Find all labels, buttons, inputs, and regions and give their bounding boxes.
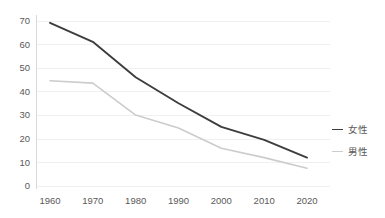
y-axis-tick-labels: 010203040506070	[19, 15, 30, 192]
series-line-male	[50, 81, 307, 168]
line-chart: 010203040506070 196019701980199020002010…	[0, 0, 385, 218]
gridlines	[36, 22, 330, 187]
legend-item-male[interactable]: 男性	[332, 140, 384, 162]
y-tick-label: 30	[19, 109, 30, 120]
x-tick-label: 1980	[125, 195, 146, 206]
y-tick-label: 70	[19, 15, 30, 26]
legend-swatch-male	[332, 151, 343, 152]
x-tick-label: 2000	[211, 195, 232, 206]
x-tick-label: 1970	[82, 195, 103, 206]
x-tick-label: 1990	[168, 195, 189, 206]
legend-swatch-female	[332, 129, 343, 130]
legend-item-female[interactable]: 女性	[332, 118, 384, 140]
x-axis-tick-labels: 1960197019801990200020102020	[39, 195, 317, 206]
x-tick-label: 1960	[39, 195, 60, 206]
x-tick-label: 2010	[254, 195, 275, 206]
y-tick-label: 0	[25, 180, 30, 191]
y-tick-label: 20	[19, 133, 30, 144]
y-tick-label: 10	[19, 157, 30, 168]
x-tick-label: 2020	[296, 195, 317, 206]
y-tick-label: 40	[19, 86, 30, 97]
legend-label-female: 女性	[348, 122, 368, 136]
series-line-female	[50, 23, 307, 158]
chart-legend: 女性 男性	[332, 118, 384, 162]
y-tick-label: 60	[19, 39, 30, 50]
y-tick-label: 50	[19, 62, 30, 73]
legend-label-male: 男性	[348, 144, 368, 158]
chart-plot-area: 010203040506070 196019701980199020002010…	[0, 0, 385, 218]
